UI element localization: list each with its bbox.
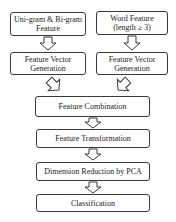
node-label-line: (length ≥ 3) xyxy=(113,23,151,32)
node-label-line: Uni-gram & Bi-gram xyxy=(14,15,82,24)
down-arrow-icon xyxy=(85,149,101,160)
node-label-line: Feature Combination xyxy=(59,102,127,111)
node-feature-vector-generation-right: Feature Vector Generation xyxy=(96,52,168,75)
diagonal-arrow-icon xyxy=(43,74,64,95)
down-arrow-icon xyxy=(85,182,101,193)
down-arrow-icon xyxy=(85,118,101,128)
down-arrow-icon xyxy=(40,37,56,50)
node-label-line: Classification xyxy=(71,199,115,208)
node-label-line: Word Feature xyxy=(110,14,154,23)
node-label-line: Feature Vector xyxy=(109,55,156,64)
node-word-feature: Word Feature (length ≥ 3) xyxy=(96,11,168,35)
node-label-line: Feature Vector xyxy=(25,55,72,64)
node-unigram-bigram-feature: Uni-gram & Bi-gram Feature xyxy=(10,12,86,36)
down-arrow-icon xyxy=(124,36,140,50)
node-label-line: Feature Transformation xyxy=(55,134,130,143)
node-classification: Classification xyxy=(36,194,150,212)
diagonal-arrow-icon xyxy=(112,74,133,95)
node-feature-vector-generation-left: Feature Vector Generation xyxy=(10,52,86,75)
node-dimension-reduction-pca: Dimension Reduction by PCA xyxy=(36,162,150,181)
node-label-line: Dimension Reduction by PCA xyxy=(44,167,142,176)
node-feature-transformation: Feature Transformation xyxy=(36,129,150,148)
node-label-line: Generation xyxy=(114,64,150,73)
node-label-line: Feature xyxy=(36,24,60,33)
node-feature-combination: Feature Combination xyxy=(35,96,150,117)
node-label-line: Generation xyxy=(30,64,66,73)
